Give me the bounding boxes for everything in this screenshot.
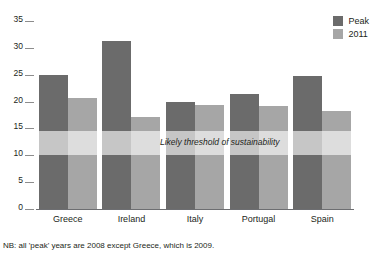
x-axis-label-italy: Italy	[163, 213, 227, 225]
bar-group	[166, 21, 224, 209]
bar-group	[39, 21, 97, 209]
bar-ireland-peak	[102, 41, 131, 209]
y-axis-tick-label: 0	[18, 203, 23, 212]
legend-item: Peak	[333, 16, 369, 26]
x-axis-label-spain: Spain	[290, 213, 354, 225]
y-axis-tick-mark	[25, 182, 34, 183]
y-axis-tick-label: 20	[14, 96, 23, 105]
bar-ireland-2011	[131, 117, 160, 209]
y-axis-tick-label: 25	[14, 69, 23, 78]
x-axis-line	[36, 209, 354, 210]
bar-greece-2011	[68, 98, 97, 209]
y-axis-tick-mark	[25, 48, 34, 49]
x-axis-label-portugal: Portugal	[227, 213, 291, 225]
y-axis-tick-label: 35	[14, 15, 23, 24]
plot-area	[36, 21, 354, 209]
bar-italy-2011	[195, 105, 224, 209]
bar-group	[293, 21, 351, 209]
legend-item: 2011	[333, 29, 369, 39]
bar-group	[102, 21, 160, 209]
y-axis-tick-label: 5	[18, 176, 23, 185]
bar-spain-2011	[322, 111, 351, 209]
y-axis-tick-mark	[25, 155, 34, 156]
y-axis-tick-mark	[25, 75, 34, 76]
bar-spain-peak	[293, 76, 322, 209]
bar-group	[230, 21, 288, 209]
legend-swatch-icon	[333, 29, 343, 39]
bar-portugal-peak	[230, 94, 259, 209]
x-axis-label-greece: Greece	[36, 213, 100, 225]
legend-label: Peak	[348, 16, 369, 26]
bar-italy-peak	[166, 102, 195, 209]
bar-greece-peak	[39, 75, 68, 209]
bar-chart: 05101520253035 Likely threshold of susta…	[0, 0, 375, 259]
sustainability-threshold-label: Likely threshold of sustainability	[160, 137, 280, 147]
legend-swatch-icon	[333, 16, 343, 26]
y-axis-tick-label: 15	[14, 122, 23, 131]
bar-portugal-2011	[259, 106, 288, 209]
footnote: NB: all 'peak' years are 2008 except Gre…	[3, 241, 214, 251]
y-axis-tick-mark	[25, 102, 34, 103]
y-axis-tick-mark	[25, 21, 34, 22]
y-axis-tick-mark	[25, 128, 34, 129]
y-axis-tick-label: 10	[14, 149, 23, 158]
legend-label: 2011	[348, 29, 367, 39]
legend: Peak2011	[333, 16, 369, 39]
x-axis-label-ireland: Ireland	[100, 213, 164, 225]
y-axis-tick-label: 30	[14, 42, 23, 51]
y-axis-tick-mark	[25, 209, 34, 210]
